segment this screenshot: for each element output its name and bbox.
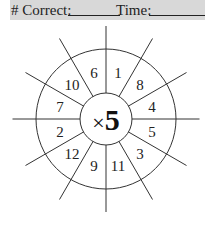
sector-number: 8 (136, 77, 144, 93)
sector-number: 2 (56, 124, 64, 140)
sector-number: 4 (148, 99, 156, 115)
sector-number: 6 (90, 65, 98, 81)
sector-number: 3 (136, 146, 144, 162)
sector-number: 10 (65, 77, 80, 93)
sector-number: 9 (90, 158, 98, 174)
sector-number: 12 (65, 146, 80, 162)
sector-number: 11 (111, 158, 125, 174)
sector-number: 5 (148, 124, 156, 140)
sector-number: 1 (114, 65, 122, 81)
sector-number: 7 (56, 99, 64, 115)
multiplication-wheel: ×5 1 8 4 5 3 11 9 12 2 7 10 6 (0, 0, 216, 226)
